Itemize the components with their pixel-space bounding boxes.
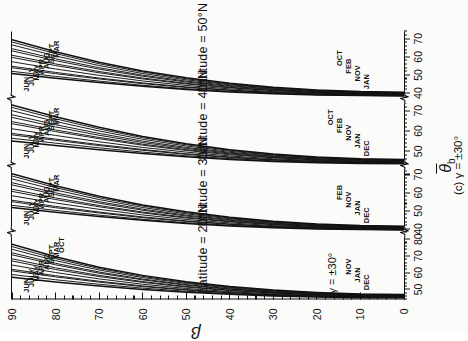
theta-tick [404,213,407,214]
theta-tick-label: 70 [412,32,424,44]
beta-tick-label: 90 [6,308,18,320]
theta-tick [404,184,407,185]
month-label-oct: OCT [57,237,66,253]
theta-tick [404,134,407,135]
theta-tick [404,63,407,64]
theta-tick [404,248,407,249]
theta-tick [404,262,407,263]
month-label-jan: JAN [353,200,362,215]
theta-tick [404,258,407,259]
theta-tick [404,295,407,296]
theta-tick [404,34,407,35]
beta-tick-label: 30 [267,308,279,320]
month-label-oct: OCT [326,109,335,125]
theta-tick [404,106,407,107]
theta-tick [404,288,410,289]
theta-tick-label: 70 [412,104,424,116]
theta-tick [404,88,407,89]
theta-tick [404,272,410,273]
theta-tick-label: 50 [412,204,424,216]
theta-tick [404,202,407,203]
gamma-note: γ = ±30° [326,252,338,293]
panel-title: Latitude = 50°N [196,2,210,92]
theta-tick [404,210,410,211]
theta-tick [404,292,407,293]
theta-tick-label: 40 [412,223,424,235]
theta-tick [404,154,407,155]
theta-tick-label: 50 [412,145,424,157]
beta-tick-label: 60 [137,308,149,320]
panel-lat-20: Latitude = 20°Nγ = ±30°JUNJULYMAYAPRAUGS… [12,232,404,299]
theta-tick [404,85,407,86]
theta-tick [404,255,410,256]
month-label-dec: DEC [362,140,371,156]
theta-tick [404,265,407,266]
month-label-nov: NOV [344,191,353,207]
theta-tick [404,110,410,111]
theta-tick [404,217,407,218]
theta-tick [404,70,407,71]
month-label-jan: JAN [353,267,362,282]
beta-tick-label: 10 [354,308,366,320]
theta-tick-label: 60 [412,266,424,278]
beta-tick-label: 0 [398,308,410,314]
theta-tick [404,67,407,68]
theta-tick [404,231,407,232]
theta-tick [404,114,407,115]
month-label-feb: FEB [335,117,344,132]
month-label-nov: NOV [344,124,353,140]
theta-tick [404,74,410,75]
beta-tick-label: 40 [224,308,236,320]
theta-tick [404,122,407,123]
theta-tick [404,188,407,189]
theta-tick [404,158,407,159]
theta-tick [404,52,407,53]
theta-tick [404,45,407,46]
panel-lat-30: Latitude = 30°NJUNJULYMAYAPRAUGSEPTMARDE… [12,165,404,232]
month-label-nov: NOV [353,65,362,81]
theta-tick [404,192,410,193]
theta-tick-label: 70 [412,168,424,180]
figure-caption: (c) γ = ±30° [452,135,464,194]
theta-tick [404,206,407,207]
panel-lat-50: Latitude = 50°NJUNJULYMAYAPRAUGSEPTMARJA… [12,31,404,98]
theta-tick [404,126,407,127]
theta-tick [404,41,407,42]
theta-tick [404,278,407,279]
theta-tick [404,252,407,253]
month-label-dec: DEC [362,207,371,223]
theta-tick [404,59,407,60]
theta-tick [404,177,407,178]
theta-tick [404,138,407,139]
theta-tick [404,173,410,174]
theta-tick [404,38,410,39]
theta-tick [404,81,407,82]
theta-tick [404,150,410,151]
theta-tick-label: 50 [412,69,424,81]
theta-tick [404,238,410,239]
theta-tick [404,92,410,93]
month-label-feb: FEB [335,184,344,199]
theta-tick [404,181,407,182]
month-label-mar: MAR [52,40,61,57]
theta-tick [404,30,407,31]
beta-tick-label: 20 [311,308,323,320]
theta-tick [404,146,407,147]
month-label-mar: MAR [52,107,61,124]
theta-tick [404,78,407,79]
month-label-mar: MAR [52,174,61,191]
theta-tick-label: 40 [412,87,424,99]
theta-tick [404,298,407,299]
beta-tick-label: 70 [93,308,105,320]
beta-tick-label: 80 [50,308,62,320]
theta-tick [404,241,407,242]
theta-tick-label: 50 [412,283,424,295]
panel-lat-40: Latitude = 40°NJUNJULYMAYAPRAUGSEPTMARDE… [12,98,404,165]
theta-tick [404,285,407,286]
month-label-oct: OCT [335,50,344,66]
theta-tick-label: 70 [412,250,424,262]
theta-tick [404,228,410,229]
